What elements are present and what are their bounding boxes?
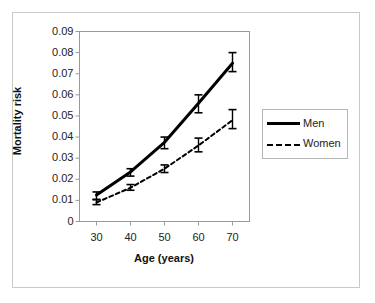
legend-label-women: Women [303, 137, 341, 149]
legend-item-women: Women [267, 136, 345, 152]
legend-item-men: Men [267, 116, 345, 132]
y-axis-ticks [76, 32, 80, 222]
legend-swatch-women [267, 144, 300, 146]
chart-figure: Mortality risk Age (years) 00.010.020.03… [0, 0, 375, 303]
x-axis-ticks [97, 222, 233, 226]
legend-swatch-men [267, 122, 300, 125]
chart-legend: Men Women [262, 109, 348, 159]
legend-label-men: Men [303, 117, 324, 129]
